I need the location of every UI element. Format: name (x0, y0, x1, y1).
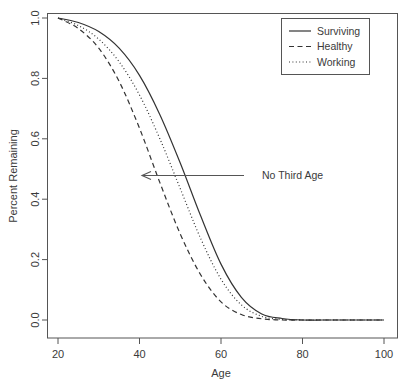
y-tick-label: 0.8 (29, 71, 41, 86)
legend: Surviving Healthy Working (282, 19, 370, 75)
x-tick-label: 40 (133, 348, 145, 360)
y-tick-label: 1.0 (29, 10, 41, 25)
y-tick-label: 0.0 (29, 312, 41, 327)
annotation-text: No Third Age (262, 169, 323, 181)
x-tick-label-group: 20 40 60 80 100 (52, 348, 393, 360)
y-tick-label-group: 0.0 0.2 0.4 0.6 0.8 1.0 (29, 10, 41, 327)
annotation-arrow (142, 172, 244, 180)
y-axis-ticks (42, 18, 48, 320)
x-tick-label: 60 (215, 348, 227, 360)
chart-figure: 0.0 0.2 0.4 0.6 0.8 1.0 Percent Remainin… (0, 0, 410, 384)
y-tick-label: 0.2 (29, 252, 41, 267)
y-axis-title: Percent Remaining (7, 129, 19, 223)
legend-label-surviving: Surviving (317, 25, 360, 37)
legend-label-working: Working (317, 56, 355, 68)
y-tick-label: 0.6 (29, 131, 41, 146)
x-tick-label: 80 (296, 348, 308, 360)
x-tick-label: 20 (52, 348, 64, 360)
x-axis-ticks (58, 338, 384, 344)
y-tick-label: 0.4 (29, 192, 41, 207)
x-axis-title: Age (211, 367, 231, 379)
legend-label-healthy: Healthy (317, 40, 353, 52)
x-tick-label: 100 (375, 348, 393, 360)
chart-canvas: 0.0 0.2 0.4 0.6 0.8 1.0 Percent Remainin… (0, 0, 410, 384)
